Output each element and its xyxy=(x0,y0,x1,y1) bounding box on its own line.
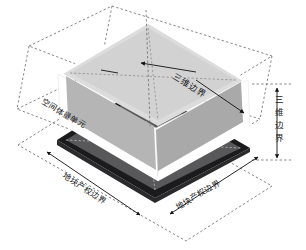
vertical-char-2: 维 xyxy=(275,107,284,117)
vertical-char-3: 边 xyxy=(275,120,284,130)
cadastre-3d-svg: 三维边界 空间体量单元 三 维 边 界 地块产权边界 地块产权边界 xyxy=(0,0,306,250)
diagram-root: 三维边界 空间体量单元 三 维 边 界 地块产权边界 地块产权边界 xyxy=(0,0,306,250)
vertical-char-4: 界 xyxy=(275,133,284,143)
vertical-char-1: 三 xyxy=(275,94,284,104)
